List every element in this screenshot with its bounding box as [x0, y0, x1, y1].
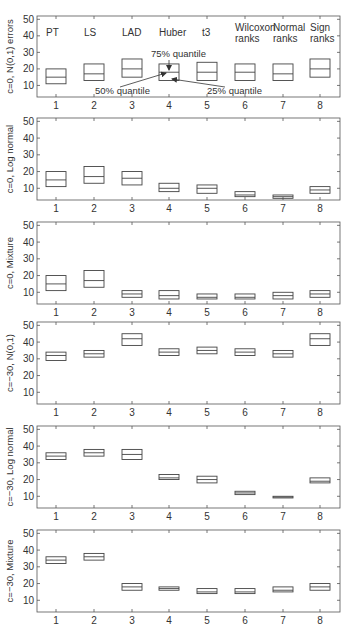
box-2 — [84, 449, 104, 456]
y-tick-label: 10 — [23, 80, 35, 91]
y-tick-label: 30 — [23, 561, 35, 572]
box-5 — [197, 185, 217, 193]
x-tick-label: 8 — [317, 100, 323, 111]
y-axis-label: c=0, Mixture — [4, 237, 15, 289]
y-tick-label: 10 — [23, 491, 35, 502]
y-tick-label: 40 — [23, 545, 35, 556]
x-tick-label: 8 — [317, 407, 323, 418]
x-tick-label: 8 — [317, 511, 323, 522]
box-6 — [235, 294, 255, 299]
box-5 — [197, 347, 217, 354]
box-1 — [46, 276, 66, 291]
method-label: Huber — [159, 27, 187, 38]
box-3 — [122, 449, 142, 459]
method-label: Sign — [310, 22, 330, 33]
y-tick-label: 40 — [23, 133, 35, 144]
box-8 — [310, 584, 330, 591]
y-tick-label: 20 — [23, 63, 35, 74]
x-tick-label: 4 — [166, 203, 172, 214]
x-tick-label: 1 — [53, 100, 59, 111]
y-tick-label: 40 — [23, 237, 35, 248]
x-tick-label: 7 — [280, 203, 286, 214]
box-4 — [159, 349, 179, 356]
box-8 — [310, 187, 330, 194]
x-tick-label: 4 — [166, 407, 172, 418]
panel-6: 102030405012345678c=−30, Mixture — [4, 528, 340, 626]
x-tick-label: 5 — [204, 100, 210, 111]
y-tick-label: 50 — [23, 320, 35, 331]
y-tick-label: 30 — [23, 353, 35, 364]
x-tick-label: 2 — [91, 615, 97, 626]
method-label: Wilcoxon — [235, 22, 276, 33]
box-3 — [122, 334, 142, 346]
y-tick-label: 40 — [23, 337, 35, 348]
x-tick-label: 7 — [280, 615, 286, 626]
panel-2: 102030405012345678c=0, Log normal — [4, 116, 340, 214]
x-tick-label: 5 — [204, 307, 210, 318]
x-tick-label: 1 — [53, 203, 59, 214]
x-tick-label: 5 — [204, 407, 210, 418]
plot-frame — [37, 530, 340, 612]
x-tick-label: 2 — [91, 307, 97, 318]
y-axis-label: c=0, Log normal — [4, 125, 15, 193]
y-axis-label: c=0, N(0,1) errors — [4, 19, 15, 94]
box-7 — [273, 496, 293, 498]
y-tick-label: 10 — [23, 287, 35, 298]
annotation-25: 25% quantile — [207, 85, 262, 96]
box-7 — [273, 587, 293, 592]
method-label: LAD — [122, 27, 141, 38]
y-tick-label: 50 — [23, 220, 35, 231]
box-3 — [122, 584, 142, 591]
box-1 — [46, 352, 66, 360]
box-2 — [84, 271, 104, 288]
x-tick-label: 5 — [204, 511, 210, 522]
y-axis-label: c=−30, Mixture — [4, 540, 15, 603]
box-6 — [235, 64, 255, 81]
y-tick-label: 20 — [23, 578, 35, 589]
x-tick-label: 2 — [91, 100, 97, 111]
x-tick-label: 6 — [242, 307, 248, 318]
x-tick-label: 3 — [129, 203, 135, 214]
x-tick-label: 4 — [166, 615, 172, 626]
plot-frame — [37, 118, 340, 200]
x-tick-label: 2 — [91, 407, 97, 418]
panel-5: 102030405012345678c=−30, Log normal — [4, 424, 340, 522]
box-7 — [273, 292, 293, 299]
panel-1: 102030405012345678c=0, N(0,1) errorsPTLS… — [4, 14, 340, 111]
box-1 — [46, 557, 66, 564]
x-tick-label: 3 — [129, 407, 135, 418]
box-8 — [310, 334, 330, 346]
method-label: PT — [46, 27, 59, 38]
box-7 — [273, 350, 293, 357]
box-2 — [84, 167, 104, 184]
x-tick-label: 8 — [317, 203, 323, 214]
x-tick-label: 6 — [242, 407, 248, 418]
box-8 — [310, 291, 330, 298]
box-4 — [159, 475, 179, 480]
box-2 — [84, 350, 104, 357]
x-tick-label: 5 — [204, 615, 210, 626]
y-tick-label: 20 — [23, 270, 35, 281]
y-axis-label: c=−30, Log normal — [4, 427, 15, 506]
plot-frame — [37, 426, 340, 508]
x-tick-label: 4 — [166, 511, 172, 522]
x-tick-label: 7 — [280, 100, 286, 111]
y-tick-label: 10 — [23, 387, 35, 398]
panel-4: 102030405012345678c=−30, N(0,1) — [4, 320, 340, 418]
y-tick-label: 50 — [23, 424, 35, 435]
y-tick-label: 30 — [23, 47, 35, 58]
x-tick-label: 1 — [53, 407, 59, 418]
box-4 — [159, 291, 179, 299]
x-tick-label: 3 — [129, 511, 135, 522]
x-tick-label: 3 — [129, 615, 135, 626]
x-tick-label: 2 — [91, 203, 97, 214]
x-tick-label: 6 — [242, 511, 248, 522]
x-tick-label: 7 — [280, 407, 286, 418]
box-5 — [197, 294, 217, 299]
x-tick-label: 1 — [53, 307, 59, 318]
panel-3: 102030405012345678c=0, Mixture — [4, 220, 340, 318]
x-tick-label: 4 — [166, 307, 172, 318]
x-tick-label: 3 — [129, 100, 135, 111]
box-1 — [46, 172, 66, 187]
x-tick-label: 8 — [317, 615, 323, 626]
